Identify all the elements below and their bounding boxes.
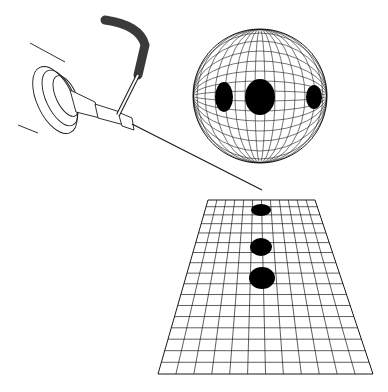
sphere-spot-center (245, 79, 275, 115)
sphere-spot-left (215, 82, 233, 112)
plane-spot-1 (251, 204, 271, 216)
diagram-canvas (0, 0, 388, 392)
illustration (0, 0, 388, 392)
spherical-grid (193, 29, 327, 163)
sphere-spot-right (306, 85, 322, 109)
plane-spot-2 (250, 238, 272, 256)
plane-spot-3 (249, 267, 275, 289)
